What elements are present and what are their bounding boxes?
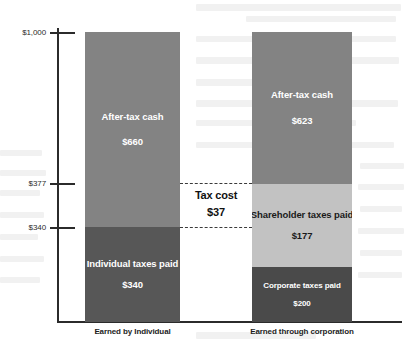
segment-label: After-tax cash [271,90,333,101]
tax-cost-title: Tax cost [180,189,252,201]
segment-value: $340 [122,279,143,290]
bar-segment-individual-taxes-paid[interactable]: Individual taxes paid $340 [85,227,180,322]
tax-cost-upper-dashed-line [180,183,252,184]
segment-value: $200 [293,299,310,308]
segment-value: $660 [122,136,143,147]
bar-segment-shareholder-taxes-paid[interactable]: Shareholder taxes paid $177 [252,184,352,267]
tax-cost-annotation: Tax cost $37 [180,189,252,218]
segment-label: Individual taxes paid [87,259,178,270]
segment-value: $177 [292,230,313,241]
y-tick-label-377: $377 [2,179,46,188]
y-tick-mark-1000 [50,32,75,34]
y-tick-label-340: $340 [2,223,46,232]
y-tick-mark-377 [50,183,75,185]
bar-earned-through-corporation[interactable]: After-tax cash $623 Shareholder taxes pa… [252,32,352,322]
segment-label: After-tax cash [102,112,164,123]
tax-cost-value: $37 [180,206,252,218]
y-tick-label-1000: $1,000 [2,28,46,37]
tax-cost-lower-dashed-line [180,227,252,228]
segment-value: $623 [292,115,313,126]
y-tick-mark-340 [50,227,75,229]
segment-label: Corporate taxes paid [263,281,341,290]
bar-earned-by-individual[interactable]: After-tax cash $660 Individual taxes pai… [85,32,180,322]
bar-segment-after-tax-cash-individual[interactable]: After-tax cash $660 [85,32,180,227]
segment-label: Shareholder taxes paid [252,210,352,221]
bar-segment-corporate-taxes-paid[interactable]: Corporate taxes paid $200 [252,267,352,322]
bar-segment-after-tax-cash-corporation[interactable]: After-tax cash $623 [252,32,352,184]
y-axis-line [57,28,59,322]
x-category-label-earned-through-corporation: Earned through corporation [242,327,362,336]
stacked-bar-chart: $1,000 $377 $340 After-tax cash $660 Ind… [0,0,404,350]
x-category-label-earned-by-individual: Earned by Individual [85,327,180,336]
